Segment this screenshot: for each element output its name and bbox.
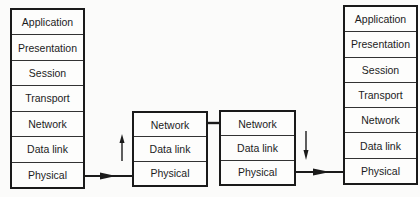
host-b-layer-application: Application: [345, 7, 416, 31]
router-1-layer-data-link: Data link: [134, 136, 206, 160]
router-2-stack: Network Data link Physical: [219, 110, 296, 186]
router-2-layer-data-link: Data link: [221, 135, 294, 159]
router-1-stack: Network Data link Physical: [132, 111, 208, 187]
host-a-stack: Application Presentation Session Transpo…: [10, 8, 85, 189]
host-b-layer-presentation: Presentation: [345, 31, 416, 56]
router-1-layer-network: Network: [134, 113, 206, 136]
host-b-layer-network: Network: [345, 107, 416, 132]
host-a-layer-physical: Physical: [12, 162, 83, 187]
host-a-layer-data-link: Data link: [12, 136, 83, 161]
host-a-layer-application: Application: [12, 10, 83, 34]
host-a-layer-session: Session: [12, 60, 83, 85]
host-a-layer-transport: Transport: [12, 85, 83, 110]
host-a-layer-network: Network: [12, 111, 83, 136]
host-b-layer-transport: Transport: [345, 82, 416, 107]
host-b-layer-session: Session: [345, 57, 416, 82]
arrow-router-2-to-host-b: [296, 169, 343, 176]
host-a-layer-presentation: Presentation: [12, 34, 83, 59]
router-2-layer-physical: Physical: [221, 160, 294, 184]
router-1-layer-physical: Physical: [134, 161, 206, 185]
host-b-stack: Application Presentation Session Transpo…: [343, 5, 418, 185]
arrow-host-a-to-router-1: [85, 173, 132, 180]
arrow-up-icon: [120, 134, 125, 161]
arrow-down-icon: [304, 131, 309, 160]
router-2-layer-network: Network: [221, 112, 294, 135]
host-b-layer-physical: Physical: [345, 158, 416, 183]
host-b-layer-data-link: Data link: [345, 132, 416, 157]
